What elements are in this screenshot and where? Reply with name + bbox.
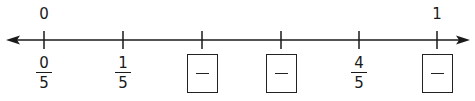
fraction-bar (36, 72, 52, 73)
fraction-label-0-5: 0 5 (32, 55, 56, 91)
top-label-zero: 0 (34, 6, 54, 22)
fraction-label-1-5: 1 5 (111, 55, 135, 91)
blank-dash-icon (431, 73, 444, 74)
fraction-label-4-5: 4 5 (347, 55, 371, 91)
denominator: 5 (111, 75, 135, 91)
numerator: 1 (111, 55, 135, 71)
numerator: 0 (32, 55, 56, 71)
top-label-one: 1 (427, 6, 447, 22)
blank-dash-icon (275, 73, 288, 74)
denominator: 5 (347, 75, 371, 91)
answer-box-2[interactable] (187, 54, 218, 93)
numerator: 4 (347, 55, 371, 71)
answer-box-5[interactable] (422, 54, 453, 93)
answer-box-3[interactable] (266, 54, 297, 93)
blank-dash-icon (196, 73, 209, 74)
fraction-bar (351, 72, 367, 73)
denominator: 5 (32, 75, 56, 91)
fraction-bar (115, 72, 131, 73)
number-line (0, 0, 475, 101)
